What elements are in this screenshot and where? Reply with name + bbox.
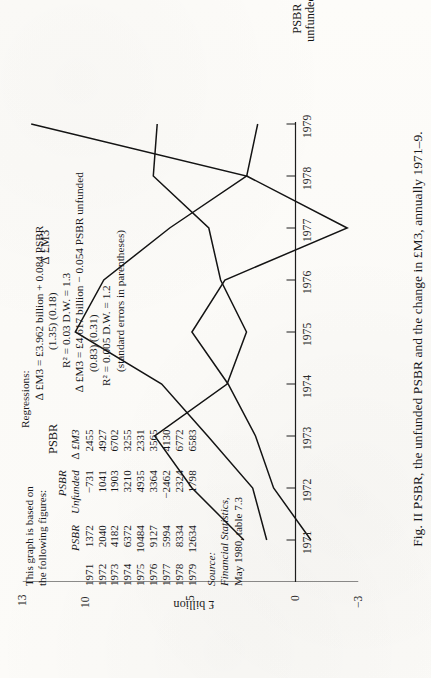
cell-year: 1978 — [172, 564, 185, 586]
col-header-psbr-unfunded-line1: PSBR — [55, 470, 68, 514]
cell-psbr-unfunded: 3210 — [120, 470, 133, 525]
regressions-title: Regressions: — [18, 172, 32, 428]
figure-caption: Fig. II PSBR, the unfunded PSBR and the … — [409, 0, 425, 678]
cell-delta-m3: 4130 — [159, 429, 172, 470]
y-tick-label-13: 13 — [15, 594, 28, 606]
x-axis-ticks — [286, 124, 295, 540]
cell-psbr-unfunded: −731 — [82, 470, 95, 525]
figures-table-body: 1971 1372 −731 2455 1972 2040 1041 4927 — [82, 429, 198, 586]
col-header-year — [55, 564, 82, 586]
regression-line-4: ∆ £M3 = £4.617 billion − 0.054 PSBR unfu… — [72, 172, 86, 428]
cell-psbr-unfunded: 1041 — [95, 470, 108, 525]
cell-year: 1971 — [82, 564, 95, 586]
table-row: 1978 8334 2324 6772 — [172, 429, 185, 586]
figure-stage: PSBR ∆ £M3 PSBR unfunded 13 10 5 0 −3 £ … — [0, 0, 431, 678]
table-row: 1971 1372 −731 2455 — [82, 429, 95, 586]
source-figures-block: This graph is based on the following fig… — [22, 429, 244, 586]
cell-delta-m3: 3255 — [120, 429, 133, 470]
cell-delta-m3: 2331 — [133, 429, 146, 470]
x-tick-label-1971: 1971 — [300, 531, 313, 554]
series-label-psbr-unfunded: PSBR unfunded — [290, 0, 316, 42]
cell-psbr-unfunded: 1903 — [107, 470, 120, 525]
table-row: 1976 9127 3364 3565 — [146, 429, 159, 586]
table-row: 1975 10484 4935 2331 — [133, 429, 146, 586]
regression-line-1: ∆ £M3 = £3.962 billion + 0.084 PSBR — [32, 172, 46, 428]
series-label-psbr-unfunded-line2: unfunded — [302, 0, 316, 42]
cell-delta-m3: 2455 — [82, 429, 95, 470]
scanned-page: PSBR ∆ £M3 PSBR unfunded 13 10 5 0 −3 £ … — [0, 0, 431, 678]
source-label: Source: — [204, 429, 217, 586]
cell-delta-m3: 3565 — [146, 429, 159, 470]
cell-psbr: 4182 — [107, 525, 120, 564]
cell-psbr-unfunded: −2462 — [159, 470, 172, 525]
cell-year: 1979 — [185, 564, 198, 586]
x-tick-label-1978: 1978 — [300, 167, 313, 190]
cell-year: 1977 — [159, 564, 172, 586]
regression-line-2: (1.35) (0.18) — [45, 172, 59, 428]
y-axis-label: £ billion — [134, 597, 254, 612]
table-row: 1974 6372 3210 3255 — [120, 429, 133, 586]
cell-delta-m3: 4927 — [95, 429, 108, 470]
cell-psbr-unfunded: 3364 — [146, 470, 159, 525]
table-row: 1972 2040 1041 4927 — [95, 429, 108, 586]
series-label-psbr-unfunded-line1: PSBR — [289, 3, 303, 33]
cell-psbr: 5994 — [159, 525, 172, 564]
source-line-2: May 1980, table 7.3 — [231, 429, 244, 586]
cell-delta-m3: 6702 — [107, 429, 120, 470]
cell-year: 1976 — [146, 564, 159, 586]
cell-year: 1973 — [107, 564, 120, 586]
regression-line-6: R² = 0.005 D.W. = 1.2 — [99, 172, 113, 428]
table-row: 1977 5994 −2462 4130 — [159, 429, 172, 586]
cell-psbr: 9127 — [146, 525, 159, 564]
cell-psbr: 1372 — [82, 525, 95, 564]
figure-ii: PSBR ∆ £M3 PSBR unfunded 13 10 5 0 −3 £ … — [0, 0, 431, 678]
cell-psbr: 2040 — [95, 525, 108, 564]
x-tick-label-1973: 1973 — [300, 427, 313, 450]
cell-delta-m3: 6583 — [185, 429, 198, 470]
cell-psbr-unfunded: 4935 — [133, 470, 146, 525]
regression-line-5: (0.83) (0.31) — [86, 172, 100, 428]
x-tick-label-1974: 1974 — [300, 375, 313, 398]
x-tick-label-1972: 1972 — [300, 479, 313, 502]
regression-line-7: (standard errors in parentheses) — [113, 172, 127, 428]
col-header-delta-m3: ∆ £M3 — [55, 429, 82, 470]
cell-psbr: 10484 — [133, 525, 146, 564]
source-line-1: Financial Statistics, — [217, 429, 230, 586]
cell-delta-m3: 6772 — [172, 429, 185, 470]
cell-year: 1972 — [95, 564, 108, 586]
table-row: 1973 4182 1903 6702 — [107, 429, 120, 586]
cell-psbr-unfunded: 1798 — [185, 470, 198, 525]
y-tick-label-10: 10 — [78, 596, 91, 608]
table-intro-text: This graph is based on the following fig… — [22, 429, 48, 586]
regressions-block: Regressions: ∆ £M3 = £3.962 billion + 0.… — [18, 172, 126, 428]
cell-psbr-unfunded: 2324 — [172, 470, 185, 525]
table-header-row: PSBR PSBR Unfunded ∆ £M3 — [55, 429, 82, 586]
cell-psbr: 8334 — [172, 525, 185, 564]
table-row: 1979 12634 1798 6583 — [185, 429, 198, 586]
x-tick-label-1976: 1976 — [300, 271, 313, 294]
cell-year: 1975 — [133, 564, 146, 586]
col-header-psbr-unfunded: PSBR Unfunded — [55, 470, 82, 525]
x-tick-label-1979: 1979 — [300, 115, 313, 138]
source-note: Source: Financial Statistics, May 1980, … — [204, 429, 243, 586]
cell-psbr: 6372 — [120, 525, 133, 564]
x-tick-label-1977: 1977 — [300, 219, 313, 242]
y-tick-label-0: 0 — [288, 595, 301, 601]
col-header-psbr: PSBR — [55, 525, 82, 564]
regression-line-3: R² = 0.03 D.W. = 1.3 — [59, 172, 73, 428]
cell-year: 1974 — [120, 564, 133, 586]
cell-psbr: 12634 — [185, 525, 198, 564]
x-tick-label-1975: 1975 — [300, 323, 313, 346]
col-header-psbr-unfunded-line2: Unfunded — [68, 470, 81, 514]
y-tick-label-minus3: −3 — [351, 596, 364, 608]
figures-table: PSBR PSBR Unfunded ∆ £M3 1971 1372 — [55, 429, 197, 586]
